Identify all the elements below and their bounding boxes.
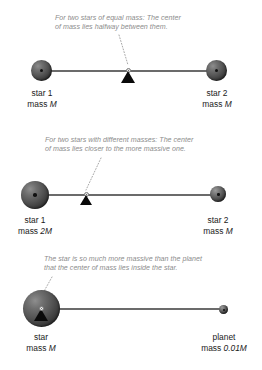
star-2-mass: mass M: [182, 99, 252, 110]
star-1-center-dot: [40, 69, 43, 72]
caption-line-2: of mass lies halfway between them.: [55, 23, 181, 32]
connecting-bar: [36, 194, 218, 196]
star-2-mass: mass M: [183, 226, 253, 237]
leader-line: [118, 34, 140, 66]
panel-caption: For two stars with different masses: The…: [45, 136, 193, 154]
star-2-center-dot: [215, 69, 218, 72]
caption-line-2: that the center of mass lies inside the …: [44, 264, 202, 273]
star-2-name: star 2: [182, 88, 252, 99]
planet-label: planet mass 0.01M: [187, 332, 261, 355]
star-2-label: star 2 mass M: [182, 88, 252, 111]
star-1-mass: mass M: [7, 99, 77, 110]
fulcrum-triangle-icon: [121, 71, 135, 83]
center-of-mass-marker: [39, 306, 44, 311]
star-1-name: star 1: [7, 88, 77, 99]
caption-line-1: The star is so much more massive than th…: [44, 255, 202, 264]
star-label: star mass M: [6, 332, 76, 355]
panel-equal-mass: For two stars of equal mass: The center …: [0, 0, 262, 125]
planet-center-dot: [223, 309, 225, 311]
star-1-center-dot: [33, 193, 37, 197]
connecting-bar: [43, 308, 224, 310]
leader-line: [81, 157, 105, 191]
panel-different-mass: For two stars with different masses: The…: [0, 125, 262, 250]
star-1-label: star 1 mass M: [7, 88, 77, 111]
panel-caption: The star is so much more massive than th…: [44, 255, 202, 273]
planet-name: planet: [187, 332, 261, 343]
panel-star-planet: The star is so much more massive than th…: [0, 250, 262, 370]
star-1-name: star 1: [0, 215, 70, 226]
caption-line-1: For two stars with different masses: The…: [45, 136, 193, 145]
caption-line-2: of mass lies closer to the more massive …: [45, 145, 193, 154]
star-mass: mass M: [6, 343, 76, 354]
star-2-name: star 2: [183, 215, 253, 226]
star-name: star: [6, 332, 76, 343]
panel-caption: For two stars of equal mass: The center …: [55, 14, 181, 32]
star-2-label: star 2 mass M: [183, 215, 253, 238]
star-1-mass: mass 2M: [0, 226, 70, 237]
center-of-mass-figure: For two stars of equal mass: The center …: [0, 0, 262, 370]
planet-mass: mass 0.01M: [187, 343, 261, 354]
caption-line-1: For two stars of equal mass: The center: [55, 14, 181, 23]
star-2-center-dot: [217, 193, 220, 196]
fulcrum-triangle-icon: [80, 195, 92, 205]
star-1-label: star 1 mass 2M: [0, 215, 70, 238]
